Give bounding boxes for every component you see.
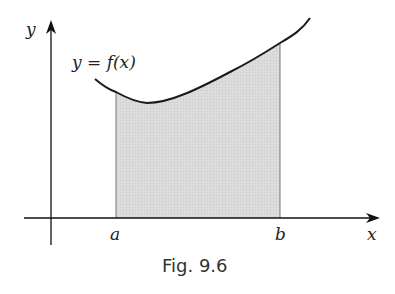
x-axis-label: x [367,224,377,244]
lower-bound-label: a [110,224,120,244]
y-axis-label: y [25,19,36,39]
area-under-curve-diagram: y y = f(x) a b x Fig. 9.6 [0,0,395,294]
upper-bound-label: b [275,224,286,244]
figure-caption: Fig. 9.6 [162,255,228,276]
shaded-area-region [116,43,280,218]
function-label: y = f(x) [71,52,136,72]
